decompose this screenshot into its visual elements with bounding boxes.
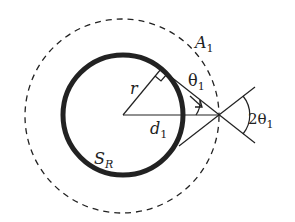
two-theta-label: 2θ1: [248, 110, 274, 131]
distance-label: d1: [150, 119, 167, 141]
radius-label: r: [130, 79, 139, 98]
sphere-label: SR: [94, 149, 113, 171]
diagram-canvas: A1 θ1 2θ1 r d1 SR: [0, 0, 295, 222]
theta-label: θ1: [188, 71, 205, 93]
outer-dashed-circle: [25, 19, 219, 213]
theta-arrow-line: [190, 96, 201, 106]
outer-circle-label: A1: [193, 33, 214, 55]
tangent-line-upper: [161, 69, 255, 143]
